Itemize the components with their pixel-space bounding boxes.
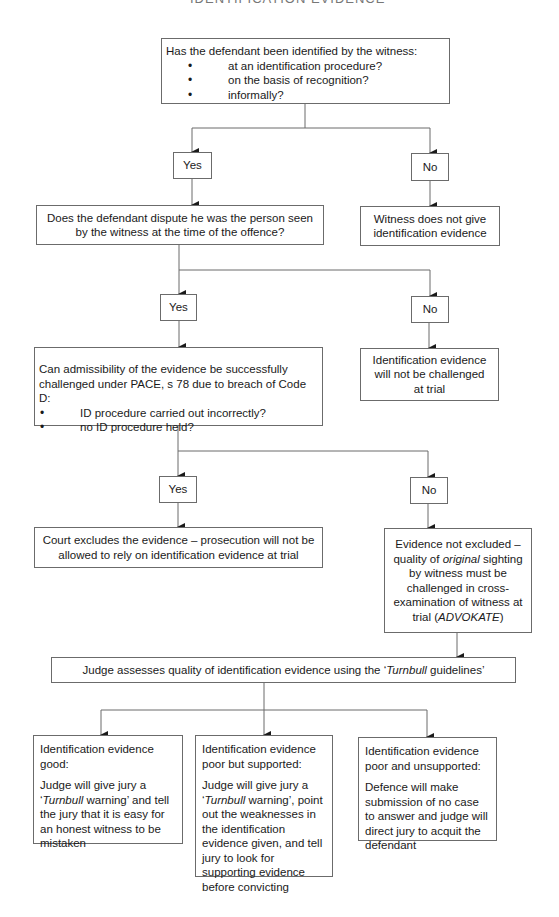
judge-assesses-text: Judge assesses quality of identification… bbox=[83, 663, 485, 678]
yes-label: Yes bbox=[169, 482, 188, 497]
question-admissibility-box: Can admissibility of the evidence be suc… bbox=[34, 347, 323, 426]
court-excludes-text: Court excludes the evidence – prosecutio… bbox=[41, 533, 316, 562]
outcome-poor-unsupported-box: Identification evidence poor and unsuppo… bbox=[358, 737, 497, 841]
no-label: No bbox=[422, 483, 437, 498]
yes-box-2: Yes bbox=[160, 294, 197, 321]
court-excludes-box: Court excludes the evidence – prosecutio… bbox=[34, 527, 323, 568]
question-admissibility-text: Can admissibility of the evidence be suc… bbox=[39, 362, 318, 406]
outcome-title: Identification evidence good: bbox=[40, 742, 176, 771]
no-label: No bbox=[423, 160, 438, 175]
question-identified-box: Has the defendant been identified by the… bbox=[161, 38, 450, 104]
not-challenged-text: Identification evidence will not be chal… bbox=[369, 353, 490, 397]
yes-box-1: Yes bbox=[173, 152, 212, 179]
outcome-title: Identification evidence poor and unsuppo… bbox=[365, 744, 490, 773]
outcome-good-box: Identification evidence good: Judge will… bbox=[33, 735, 183, 844]
identification-methods-list: at an identification procedure? on the b… bbox=[166, 59, 445, 103]
judge-assesses-box: Judge assesses quality of identification… bbox=[51, 657, 516, 683]
outcome-body: Judge will give jury a ‘Turnbull warning… bbox=[40, 778, 176, 851]
no-box-1: No bbox=[411, 153, 449, 181]
outcome-title: Identification evidence poor but support… bbox=[202, 742, 326, 771]
bullet-item: at an identification procedure? bbox=[228, 59, 445, 74]
yes-label: Yes bbox=[183, 158, 202, 173]
question-dispute-text: Does the defendant dispute he was the pe… bbox=[45, 211, 315, 240]
outcome-poor-supported-box: Identification evidence poor but support… bbox=[195, 735, 333, 877]
no-label: No bbox=[423, 302, 438, 317]
bullet-item: on the basis of recognition? bbox=[228, 73, 445, 88]
not-challenged-box: Identification evidence will not be chal… bbox=[360, 348, 499, 401]
outcome-body: Defence will make submission of no case … bbox=[365, 780, 490, 853]
no-identification-evidence-text: Witness does not give identification evi… bbox=[371, 212, 489, 241]
yes-box-3: Yes bbox=[159, 476, 197, 503]
bullet-item: ID procedure carried out incorrectly? bbox=[80, 406, 318, 421]
no-box-3: No bbox=[410, 477, 448, 504]
bullet-item: no ID procedure held? bbox=[80, 420, 318, 435]
bullet-item: informally? bbox=[228, 88, 445, 103]
yes-label: Yes bbox=[169, 300, 188, 315]
question-identified-text: Has the defendant been identified by the… bbox=[166, 44, 445, 59]
evidence-not-excluded-box: Evidence not excluded – quality of origi… bbox=[384, 528, 532, 633]
question-dispute-box: Does the defendant dispute he was the pe… bbox=[36, 205, 324, 245]
code-d-breach-list: ID procedure carried out incorrectly? no… bbox=[39, 406, 318, 435]
no-identification-evidence-box: Witness does not give identification evi… bbox=[360, 206, 500, 246]
outcome-body: Judge will give jury a ‘Turnbull warning… bbox=[202, 778, 326, 894]
no-box-2: No bbox=[411, 296, 449, 323]
evidence-not-excluded-text: Evidence not excluded – quality of origi… bbox=[393, 537, 523, 624]
